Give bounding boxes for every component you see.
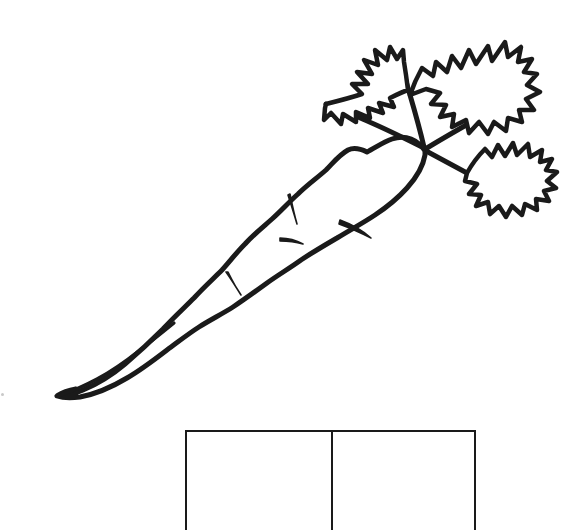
carrot-leaf-upper-right [410,42,540,134]
answer-cell-2[interactable] [331,432,475,530]
answer-cell-1[interactable] [187,432,331,530]
carrot-leaf-upper-left [324,47,408,124]
carrot-leaf-lower-right [465,143,557,217]
carrot-illustration [57,42,557,398]
worksheet-page [0,0,566,530]
answer-boxes [185,430,476,530]
carrot-root-body [57,137,425,397]
